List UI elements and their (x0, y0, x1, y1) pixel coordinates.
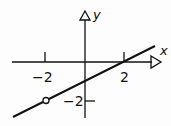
graph-svg: x y −2 2 −2 (0, 0, 171, 126)
line-segment-right (49, 46, 155, 99)
graph: x y −2 2 −2 (0, 0, 171, 126)
y-axis-label: y (92, 7, 101, 22)
x-tick-label-neg2: −2 (32, 69, 53, 85)
y-axis-arrow-icon (80, 11, 90, 20)
y-tick-label-neg2: −2 (63, 93, 84, 109)
open-point (43, 98, 49, 104)
x-tick-label-2: 2 (120, 69, 129, 85)
line-segment-left (13, 102, 43, 117)
x-axis-label: x (159, 43, 168, 58)
